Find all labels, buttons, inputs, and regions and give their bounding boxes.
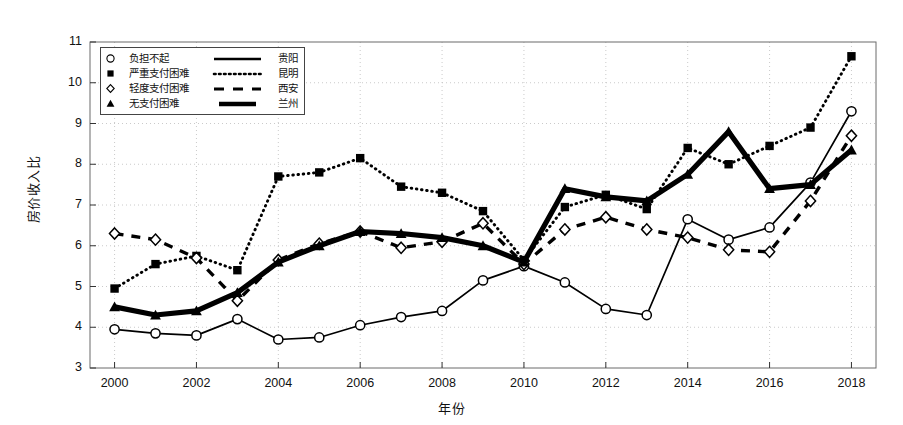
data-point-marker xyxy=(437,306,446,315)
y-tick-label: 9 xyxy=(54,116,82,130)
legend-row: 负担不起 贵阳 xyxy=(105,51,300,66)
x-tick-label: 2002 xyxy=(171,376,221,390)
data-point-marker xyxy=(683,144,691,152)
data-point-marker xyxy=(233,315,242,324)
data-point-marker xyxy=(765,142,773,150)
data-point-marker xyxy=(846,145,857,155)
data-point-marker xyxy=(478,276,487,285)
data-point-marker xyxy=(560,278,569,287)
y-tick-label: 11 xyxy=(54,34,82,48)
data-point-marker xyxy=(110,284,118,292)
chart-figure: 房价收入比 年份 负担不起 贵阳 严重支付困难 昆明 xyxy=(0,0,903,425)
data-point-marker xyxy=(724,235,733,244)
data-point-marker xyxy=(724,244,734,255)
data-point-marker xyxy=(642,310,651,319)
circle-open-icon xyxy=(105,53,127,64)
legend-city-label: 兰州 xyxy=(265,96,300,111)
legend-affordability-label: 无支付困难 xyxy=(127,96,211,111)
x-tick-label: 2008 xyxy=(417,376,467,390)
data-point-marker xyxy=(274,172,282,180)
legend-line-sample-solid xyxy=(211,52,265,66)
legend-row: 严重支付困难 昆明 xyxy=(105,66,300,81)
x-axis-label: 年份 xyxy=(0,398,903,417)
data-point-marker xyxy=(683,215,692,224)
legend-line-sample-dotted xyxy=(211,67,265,81)
legend-row: 无支付困难 兰州 xyxy=(105,96,300,111)
square-filled-icon xyxy=(105,68,127,79)
data-point-marker xyxy=(150,234,160,245)
x-tick-label: 2018 xyxy=(826,376,876,390)
x-tick-label: 2010 xyxy=(499,376,549,390)
x-tick-label: 2014 xyxy=(663,376,713,390)
y-tick-label: 4 xyxy=(54,319,82,333)
data-point-marker xyxy=(847,52,855,60)
data-point-marker xyxy=(356,154,364,162)
y-tick-label: 3 xyxy=(54,360,82,374)
y-axis-label: 房价收入比 xyxy=(23,130,42,250)
data-point-marker xyxy=(438,189,446,197)
y-tick-label: 8 xyxy=(54,156,82,170)
legend-city-label: 贵阳 xyxy=(265,51,300,66)
chart-legend: 负担不起 贵阳 严重支付困难 昆明 轻度支付困难 西安 xyxy=(100,47,305,115)
data-point-marker xyxy=(764,246,774,257)
data-point-marker xyxy=(601,304,610,313)
data-point-marker xyxy=(233,266,241,274)
x-tick-label: 2016 xyxy=(745,376,795,390)
data-point-marker xyxy=(151,260,159,268)
x-tick-label: 2012 xyxy=(581,376,631,390)
y-tick-label: 6 xyxy=(54,238,82,252)
data-point-marker xyxy=(397,312,406,321)
legend-line-sample-dashed xyxy=(211,82,265,96)
data-point-marker xyxy=(642,224,652,235)
data-point-marker xyxy=(109,228,119,239)
data-point-marker xyxy=(846,130,856,141)
y-tick-label: 10 xyxy=(54,75,82,89)
data-point-marker xyxy=(601,212,611,223)
data-point-marker xyxy=(479,207,487,215)
data-point-marker xyxy=(396,242,406,253)
legend-row: 轻度支付困难 西安 xyxy=(105,81,300,96)
legend-affordability-label: 负担不起 xyxy=(127,51,211,66)
data-point-marker xyxy=(274,335,283,344)
diamond-open-icon xyxy=(105,83,127,94)
data-point-marker xyxy=(397,182,405,190)
legend-line-sample-thick xyxy=(211,97,265,111)
data-point-marker xyxy=(683,232,693,243)
data-point-marker xyxy=(560,224,570,235)
data-point-marker xyxy=(723,126,734,136)
data-point-marker xyxy=(356,321,365,330)
data-point-marker xyxy=(806,123,814,131)
legend-affordability-label: 严重支付困难 xyxy=(127,66,211,81)
data-point-marker xyxy=(151,329,160,338)
data-point-marker xyxy=(724,160,732,168)
data-point-marker xyxy=(847,107,856,116)
x-tick-label: 2000 xyxy=(90,376,140,390)
triangle-filled-icon xyxy=(105,98,127,109)
legend-affordability-label: 轻度支付困难 xyxy=(127,81,211,96)
data-point-marker xyxy=(561,203,569,211)
y-tick-label: 5 xyxy=(54,279,82,293)
data-point-marker xyxy=(643,205,651,213)
x-tick-label: 2006 xyxy=(335,376,385,390)
data-point-marker xyxy=(110,325,119,334)
legend-city-label: 昆明 xyxy=(265,66,300,81)
data-point-marker xyxy=(315,168,323,176)
data-point-marker xyxy=(315,333,324,342)
data-point-marker xyxy=(765,223,774,232)
y-tick-label: 7 xyxy=(54,197,82,211)
data-point-marker xyxy=(192,331,201,340)
x-tick-label: 2004 xyxy=(253,376,303,390)
legend-city-label: 西安 xyxy=(265,81,300,96)
